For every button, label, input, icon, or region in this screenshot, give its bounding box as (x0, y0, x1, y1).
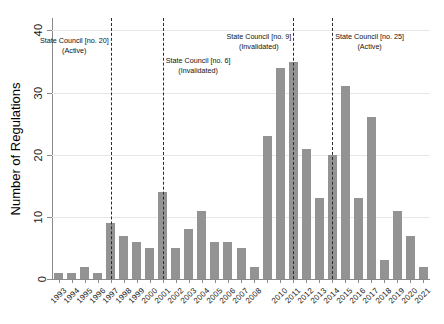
bar (367, 117, 376, 279)
bar-series (52, 18, 430, 279)
x-axis-tick (163, 279, 164, 283)
bar (210, 242, 219, 279)
bar (341, 86, 350, 279)
bar (250, 267, 259, 279)
x-axis-tick (228, 279, 229, 283)
bar (223, 242, 232, 279)
x-axis-tick (150, 279, 151, 283)
plot-area: 010203040 199319941995199619971998199920… (52, 18, 430, 279)
x-axis-tick (267, 279, 268, 283)
x-axis-tick (215, 279, 216, 283)
x-axis-tick (345, 279, 346, 283)
bar (171, 248, 180, 279)
event-label-line2: (Invalidated) (226, 42, 291, 52)
bar (184, 229, 193, 279)
bar (315, 198, 324, 279)
y-axis-tick-label: 30 (33, 86, 45, 99)
event-line-state-council-no-9 (293, 18, 294, 279)
event-label-state-council-no-20: State Council [no. 20](Active) (40, 36, 109, 55)
x-axis-tick (124, 279, 125, 283)
x-axis-tick (98, 279, 99, 283)
bar (145, 248, 154, 279)
x-axis-tick (189, 279, 190, 283)
event-label-state-council-no-25: State Council [no. 25](Active) (335, 32, 404, 51)
bar (197, 211, 206, 279)
x-axis-tick (137, 279, 138, 283)
y-axis-tick-label: 10 (33, 210, 45, 223)
bar (263, 136, 272, 279)
x-axis-tick (371, 279, 372, 283)
event-line-state-council-no-25 (332, 18, 333, 279)
bar (419, 267, 428, 279)
x-axis-tick (319, 279, 320, 283)
event-line-state-council-no-20 (111, 18, 112, 279)
x-axis-tick (384, 279, 385, 283)
x-axis-tick (358, 279, 359, 283)
x-axis-tick (423, 279, 424, 283)
x-axis-tick (176, 279, 177, 283)
x-axis-tick (410, 279, 411, 283)
x-axis-tick (241, 279, 242, 283)
bar (302, 149, 311, 280)
y-axis-title-wrap: Number of Regulations (6, 18, 24, 279)
x-axis-tick (59, 279, 60, 283)
x-axis-tick (280, 279, 281, 283)
event-label-line1: State Council [no. 6] (166, 56, 231, 66)
x-axis-tick (202, 279, 203, 283)
x-axis-tick (111, 279, 112, 283)
bar (80, 267, 89, 279)
event-label-state-council-no-9: State Council [no. 9](Invalidated) (226, 32, 291, 51)
x-axis-tick (254, 279, 255, 283)
event-label-line2: (Invalidated) (166, 66, 231, 76)
bar (237, 248, 246, 279)
y-axis-tick-label: 0 (36, 276, 48, 282)
event-label-line1: State Council [no. 9] (226, 32, 291, 42)
x-axis-tick (397, 279, 398, 283)
event-label-line2: (Active) (335, 42, 404, 52)
bar (354, 198, 363, 279)
y-axis-tick-label: 40 (33, 24, 45, 37)
regulations-bar-chart: Number of Regulations 010203040 19931994… (0, 0, 444, 324)
event-label-line1: State Council [no. 25] (335, 32, 404, 42)
bar (119, 236, 128, 280)
y-axis-title: Number of Regulations (8, 82, 23, 215)
x-axis-tick (293, 279, 294, 283)
event-label-line1: State Council [no. 20] (40, 36, 109, 46)
bar (406, 236, 415, 280)
x-axis-tick (306, 279, 307, 283)
bar (132, 242, 141, 279)
event-label-state-council-no-6: State Council [no. 6](Invalidated) (166, 56, 231, 75)
bar (393, 211, 402, 279)
x-axis-tick (85, 279, 86, 283)
y-axis-tick-label: 20 (33, 148, 45, 161)
bar (380, 260, 389, 279)
event-line-state-council-no-6 (163, 18, 164, 279)
bar (276, 68, 285, 279)
event-label-line2: (Active) (40, 46, 109, 56)
x-axis-tick (72, 279, 73, 283)
x-axis-tick (332, 279, 333, 283)
